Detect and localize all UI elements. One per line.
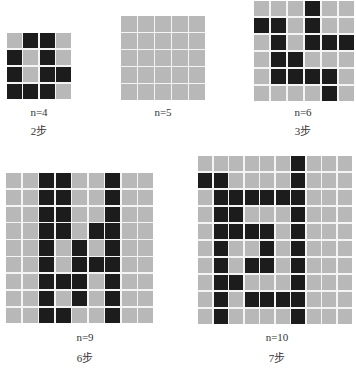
filled-cell bbox=[105, 308, 120, 323]
empty-cell bbox=[138, 308, 153, 323]
n-label: n=5 bbox=[133, 106, 193, 118]
empty-cell bbox=[72, 223, 87, 238]
filled-cell bbox=[198, 173, 212, 188]
empty-cell bbox=[6, 223, 21, 238]
empty-cell bbox=[338, 173, 352, 188]
empty-cell bbox=[260, 173, 274, 188]
filled-cell bbox=[72, 257, 87, 272]
empty-cell bbox=[276, 156, 290, 171]
empty-cell bbox=[122, 274, 137, 289]
filled-cell bbox=[39, 173, 54, 188]
empty-cell bbox=[56, 50, 71, 65]
n-label: n=9 bbox=[55, 331, 115, 343]
empty-cell bbox=[121, 16, 137, 32]
filled-cell bbox=[40, 33, 55, 48]
empty-cell bbox=[138, 223, 153, 238]
empty-cell bbox=[307, 224, 321, 239]
empty-cell bbox=[322, 241, 336, 256]
filled-cell bbox=[39, 274, 54, 289]
empty-cell bbox=[155, 84, 171, 100]
filled-cell bbox=[291, 275, 305, 290]
empty-cell bbox=[338, 190, 352, 205]
empty-cell bbox=[138, 67, 154, 83]
filled-cell bbox=[322, 69, 337, 84]
filled-cell bbox=[56, 67, 71, 82]
empty-cell bbox=[56, 240, 71, 255]
empty-cell bbox=[322, 275, 336, 290]
empty-cell bbox=[229, 173, 243, 188]
empty-cell bbox=[189, 16, 205, 32]
filled-cell bbox=[260, 224, 274, 239]
empty-cell bbox=[288, 1, 303, 16]
grid-n5 bbox=[121, 16, 205, 100]
filled-cell bbox=[291, 224, 305, 239]
filled-cell bbox=[39, 190, 54, 205]
empty-cell bbox=[72, 190, 87, 205]
filled-cell bbox=[291, 309, 305, 324]
filled-cell bbox=[39, 257, 54, 272]
empty-cell bbox=[307, 275, 321, 290]
empty-cell bbox=[322, 292, 336, 307]
empty-cell bbox=[172, 33, 188, 49]
empty-cell bbox=[322, 207, 336, 222]
empty-cell bbox=[6, 274, 21, 289]
steps-label: 7步 bbox=[247, 349, 307, 365]
empty-cell bbox=[89, 173, 104, 188]
filled-cell bbox=[105, 257, 120, 272]
empty-cell bbox=[138, 50, 154, 66]
filled-cell bbox=[271, 69, 286, 84]
empty-cell bbox=[6, 190, 21, 205]
empty-cell bbox=[6, 173, 21, 188]
empty-cell bbox=[6, 207, 21, 222]
empty-cell bbox=[189, 33, 205, 49]
empty-cell bbox=[155, 16, 171, 32]
filled-cell bbox=[291, 173, 305, 188]
filled-cell bbox=[72, 274, 87, 289]
empty-cell bbox=[172, 84, 188, 100]
empty-cell bbox=[138, 257, 153, 272]
filled-cell bbox=[291, 207, 305, 222]
filled-cell bbox=[322, 35, 337, 50]
empty-cell bbox=[72, 308, 87, 323]
empty-cell bbox=[155, 67, 171, 83]
filled-cell bbox=[214, 224, 228, 239]
empty-cell bbox=[229, 156, 243, 171]
filled-cell bbox=[105, 190, 120, 205]
empty-cell bbox=[254, 69, 269, 84]
n-label: n=4 bbox=[9, 106, 69, 118]
empty-cell bbox=[23, 291, 38, 306]
filled-cell bbox=[305, 35, 320, 50]
empty-cell bbox=[322, 156, 336, 171]
empty-cell bbox=[338, 224, 352, 239]
empty-cell bbox=[245, 241, 259, 256]
empty-cell bbox=[23, 207, 38, 222]
empty-cell bbox=[322, 190, 336, 205]
empty-cell bbox=[260, 309, 274, 324]
empty-cell bbox=[189, 84, 205, 100]
filled-cell bbox=[260, 190, 274, 205]
empty-cell bbox=[172, 67, 188, 83]
empty-cell bbox=[288, 35, 303, 50]
empty-cell bbox=[322, 224, 336, 239]
empty-cell bbox=[56, 257, 71, 272]
empty-cell bbox=[155, 50, 171, 66]
empty-cell bbox=[322, 309, 336, 324]
empty-cell bbox=[339, 52, 354, 67]
filled-cell bbox=[229, 190, 243, 205]
empty-cell bbox=[23, 223, 38, 238]
empty-cell bbox=[307, 258, 321, 273]
empty-cell bbox=[245, 156, 259, 171]
empty-cell bbox=[122, 240, 137, 255]
filled-cell bbox=[105, 274, 120, 289]
empty-cell bbox=[56, 291, 71, 306]
filled-cell bbox=[288, 69, 303, 84]
filled-cell bbox=[56, 190, 71, 205]
filled-cell bbox=[105, 291, 120, 306]
empty-cell bbox=[288, 86, 303, 101]
filled-cell bbox=[245, 190, 259, 205]
empty-cell bbox=[56, 33, 71, 48]
empty-cell bbox=[338, 309, 352, 324]
filled-cell bbox=[214, 275, 228, 290]
empty-cell bbox=[121, 50, 137, 66]
empty-cell bbox=[322, 173, 336, 188]
